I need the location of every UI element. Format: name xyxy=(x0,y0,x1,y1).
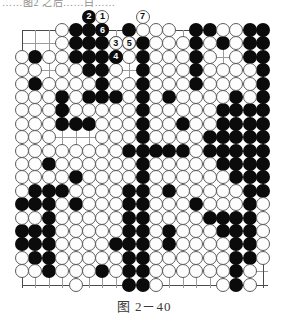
black-stone xyxy=(216,130,230,144)
white-stone xyxy=(69,103,83,117)
black-stone xyxy=(243,117,257,131)
white-stone xyxy=(15,103,29,117)
black-stone xyxy=(42,157,56,171)
black-stone xyxy=(122,251,136,265)
black-stone xyxy=(189,63,203,77)
white-stone xyxy=(162,211,176,225)
white-stone xyxy=(42,130,56,144)
numbered-move-6: 6 xyxy=(95,23,109,37)
white-stone xyxy=(176,50,190,64)
black-stone xyxy=(28,251,42,265)
white-stone xyxy=(203,170,217,184)
white-stone xyxy=(109,103,123,117)
white-stone xyxy=(149,184,163,198)
white-stone xyxy=(82,144,96,158)
black-stone xyxy=(256,170,270,184)
white-stone xyxy=(162,157,176,171)
white-stone xyxy=(55,157,69,171)
black-stone xyxy=(122,23,136,37)
black-stone xyxy=(229,144,243,158)
black-stone xyxy=(256,63,270,77)
white-stone xyxy=(256,197,270,211)
black-stone xyxy=(256,77,270,91)
white-stone xyxy=(176,211,190,225)
numbered-move-4: 4 xyxy=(109,50,123,64)
black-stone xyxy=(122,184,136,198)
white-stone xyxy=(82,197,96,211)
black-stone xyxy=(55,90,69,104)
black-stone xyxy=(256,144,270,158)
black-stone xyxy=(95,264,109,278)
black-stone xyxy=(216,144,230,158)
white-stone xyxy=(203,36,217,50)
white-stone xyxy=(149,130,163,144)
black-stone xyxy=(122,278,136,292)
white-stone xyxy=(203,63,217,77)
black-stone xyxy=(229,237,243,251)
black-stone xyxy=(243,197,257,211)
move-number-label: 4 xyxy=(109,50,123,64)
black-stone xyxy=(189,77,203,91)
black-stone xyxy=(122,224,136,238)
white-stone xyxy=(122,117,136,131)
black-stone xyxy=(229,130,243,144)
white-stone xyxy=(176,170,190,184)
white-stone xyxy=(55,77,69,91)
black-stone xyxy=(136,77,150,91)
white-stone xyxy=(109,157,123,171)
black-stone xyxy=(82,23,96,37)
white-stone xyxy=(189,130,203,144)
move-number-label: 5 xyxy=(123,37,135,49)
black-stone xyxy=(136,90,150,104)
black-stone xyxy=(122,237,136,251)
white-stone xyxy=(176,63,190,77)
black-stone xyxy=(136,197,150,211)
white-stone xyxy=(82,77,96,91)
white-stone xyxy=(162,50,176,64)
black-stone xyxy=(229,157,243,171)
white-stone xyxy=(109,77,123,91)
black-stone xyxy=(243,144,257,158)
black-stone xyxy=(136,224,150,238)
black-stone xyxy=(229,251,243,265)
black-stone xyxy=(162,90,176,104)
white-stone xyxy=(28,264,42,278)
white-stone xyxy=(69,63,83,77)
white-stone xyxy=(189,144,203,158)
white-stone xyxy=(122,50,136,64)
black-stone xyxy=(256,23,270,37)
white-stone xyxy=(55,224,69,238)
white-stone xyxy=(203,117,217,131)
white-stone xyxy=(189,264,203,278)
white-stone xyxy=(149,197,163,211)
move-number-label: 3 xyxy=(110,37,122,49)
black-stone xyxy=(95,77,109,91)
white-stone xyxy=(122,90,136,104)
white-stone xyxy=(15,264,29,278)
black-stone xyxy=(176,117,190,131)
black-stone xyxy=(136,170,150,184)
white-stone xyxy=(82,264,96,278)
white-stone xyxy=(95,224,109,238)
white-stone xyxy=(162,251,176,265)
black-stone xyxy=(229,224,243,238)
white-stone xyxy=(55,237,69,251)
white-stone xyxy=(149,63,163,77)
white-stone xyxy=(176,237,190,251)
white-stone xyxy=(55,170,69,184)
white-stone xyxy=(149,157,163,171)
figure-caption: 图 2－40 xyxy=(0,296,288,315)
white-stone xyxy=(176,36,190,50)
white-stone xyxy=(162,264,176,278)
white-stone xyxy=(189,157,203,171)
black-stone xyxy=(203,130,217,144)
white-stone xyxy=(149,211,163,225)
white-stone xyxy=(42,170,56,184)
white-stone xyxy=(176,224,190,238)
white-stone xyxy=(15,251,29,265)
black-stone xyxy=(256,184,270,198)
white-stone xyxy=(42,77,56,91)
white-stone xyxy=(149,103,163,117)
white-stone xyxy=(55,264,69,278)
white-stone xyxy=(189,251,203,265)
